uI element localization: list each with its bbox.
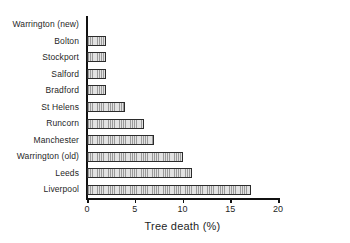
bar bbox=[87, 36, 106, 46]
x-axis-tick-label: 5 bbox=[132, 203, 137, 215]
category-label: Leeds bbox=[0, 165, 83, 182]
bar bbox=[87, 85, 106, 95]
bar-row bbox=[87, 16, 278, 33]
x-axis-tick-label: 15 bbox=[225, 203, 235, 215]
bar-row bbox=[87, 33, 278, 50]
bar-row bbox=[87, 115, 278, 132]
bar-row bbox=[87, 82, 278, 99]
bar-row bbox=[87, 49, 278, 66]
category-label: Warrington (new) bbox=[0, 16, 83, 33]
bar bbox=[87, 52, 106, 62]
bar-series bbox=[87, 16, 278, 198]
x-axis-tick-label: 10 bbox=[177, 203, 187, 215]
bar-row bbox=[87, 132, 278, 149]
bar-row bbox=[87, 181, 278, 198]
plot-area bbox=[87, 16, 278, 198]
x-axis-tick-label: 0 bbox=[84, 203, 89, 215]
x-axis-tick-label: 20 bbox=[273, 203, 283, 215]
category-label: Warrington (old) bbox=[0, 148, 83, 165]
category-axis-labels: Warrington (new) Bolton Stockport Salfor… bbox=[0, 16, 83, 198]
bar-chart: Warrington (new) Bolton Stockport Salfor… bbox=[0, 0, 350, 243]
bar bbox=[87, 135, 154, 145]
category-label: Runcorn bbox=[0, 115, 83, 132]
bar bbox=[87, 119, 144, 129]
bar bbox=[87, 152, 183, 162]
bar bbox=[87, 185, 251, 195]
x-axis-tick-labels: 05101520 bbox=[87, 203, 278, 217]
x-axis-title: Tree death (%) bbox=[87, 220, 278, 232]
category-label: Bolton bbox=[0, 33, 83, 50]
category-label: Manchester bbox=[0, 132, 83, 149]
category-label: Salford bbox=[0, 66, 83, 83]
bar bbox=[87, 102, 125, 112]
bar bbox=[87, 69, 106, 79]
bar bbox=[87, 168, 192, 178]
bar-row bbox=[87, 66, 278, 83]
bar-row bbox=[87, 165, 278, 182]
category-label: Bradford bbox=[0, 82, 83, 99]
category-label: St Helens bbox=[0, 99, 83, 116]
bar-row bbox=[87, 99, 278, 116]
bar-row bbox=[87, 148, 278, 165]
category-label: Liverpool bbox=[0, 181, 83, 198]
category-label: Stockport bbox=[0, 49, 83, 66]
